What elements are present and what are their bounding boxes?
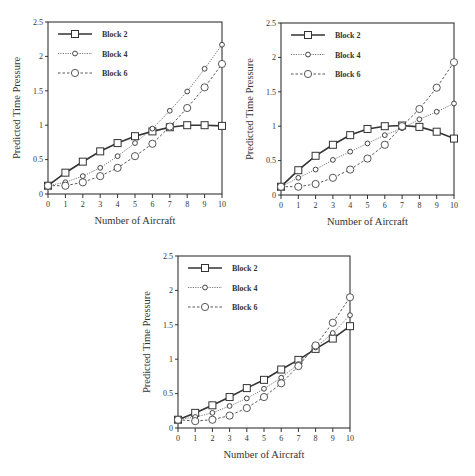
legend-label: Block 6 bbox=[102, 69, 128, 78]
legend-square-icon bbox=[305, 32, 312, 39]
circle-marker-icon bbox=[347, 166, 354, 173]
square-marker-icon bbox=[97, 148, 104, 155]
y-tick-label: 0.5 bbox=[163, 389, 173, 398]
small-circle-marker-icon bbox=[167, 108, 172, 113]
circle-marker-icon bbox=[149, 140, 156, 147]
y-tick-label: 1 bbox=[272, 122, 276, 131]
circle-marker-icon bbox=[364, 155, 371, 162]
square-marker-icon bbox=[243, 385, 250, 392]
y-tick-label: 1.5 bbox=[163, 321, 173, 330]
circle-marker-icon bbox=[226, 412, 233, 419]
y-tick-label: 2 bbox=[39, 52, 43, 61]
x-tick-label: 7 bbox=[168, 200, 172, 209]
square-marker-icon bbox=[433, 128, 440, 135]
small-circle-marker-icon bbox=[313, 167, 318, 172]
circle-marker-icon bbox=[184, 104, 191, 111]
y-tick-label: 1 bbox=[169, 355, 173, 364]
circle-marker-icon bbox=[218, 60, 225, 67]
square-marker-icon bbox=[132, 133, 139, 140]
square-marker-icon bbox=[347, 132, 354, 139]
y-axis-title: Predicted Time Pressure bbox=[244, 58, 255, 160]
square-marker-icon bbox=[209, 402, 216, 409]
x-tick-label: 1 bbox=[296, 201, 300, 210]
legend-label: Block 2 bbox=[102, 30, 128, 39]
x-tick-label: 6 bbox=[383, 201, 387, 210]
square-marker-icon bbox=[219, 122, 226, 129]
x-tick-label: 4 bbox=[245, 434, 249, 443]
y-tick-label: 2.5 bbox=[163, 252, 173, 261]
square-marker-icon bbox=[226, 394, 233, 401]
series-line-block-6 bbox=[281, 62, 454, 187]
x-axis-title: Number of Aircraft bbox=[223, 449, 304, 460]
square-marker-icon bbox=[114, 140, 121, 147]
x-axis-title: Number of Aircraft bbox=[327, 216, 408, 227]
square-marker-icon bbox=[79, 158, 86, 165]
circle-marker-icon bbox=[62, 182, 69, 189]
x-tick-label: 4 bbox=[348, 201, 352, 210]
x-tick-label: 7 bbox=[400, 201, 404, 210]
circle-marker-icon bbox=[166, 123, 173, 130]
y-tick-label: 1.5 bbox=[266, 88, 276, 97]
chart-panel-bottom: 00.511.522.5012345678910Number of Aircra… bbox=[141, 252, 354, 460]
small-circle-marker-icon bbox=[115, 154, 120, 159]
circle-marker-icon bbox=[277, 183, 284, 190]
small-circle-marker-icon bbox=[220, 42, 225, 47]
small-circle-marker-icon bbox=[331, 158, 336, 163]
small-circle-marker-icon bbox=[133, 141, 138, 146]
circle-marker-icon bbox=[243, 404, 250, 411]
y-tick-label: 1.5 bbox=[33, 87, 43, 96]
x-tick-label: 7 bbox=[296, 434, 300, 443]
circle-marker-icon bbox=[174, 416, 181, 423]
x-tick-label: 10 bbox=[450, 201, 458, 210]
x-axis-title: Number of Aircraft bbox=[94, 215, 175, 226]
square-marker-icon bbox=[416, 123, 423, 130]
legend-label: Block 4 bbox=[232, 284, 258, 293]
circle-marker-icon bbox=[114, 164, 121, 171]
square-marker-icon bbox=[364, 125, 371, 132]
small-circle-marker-icon bbox=[98, 165, 103, 170]
plot-frame bbox=[48, 22, 222, 194]
figure-canvas: 00.511.522.5012345678910Number of Aircra… bbox=[0, 0, 475, 476]
square-marker-icon bbox=[329, 141, 336, 148]
legend-label: Block 4 bbox=[102, 50, 128, 59]
circle-marker-icon bbox=[399, 123, 406, 130]
small-circle-marker-icon bbox=[348, 149, 353, 154]
x-tick-label: 6 bbox=[150, 200, 154, 209]
legend-square-icon bbox=[202, 265, 209, 272]
y-tick-label: 1 bbox=[39, 121, 43, 130]
small-circle-marker-icon bbox=[365, 141, 370, 146]
legend-label: Block 2 bbox=[335, 31, 361, 40]
small-circle-marker-icon bbox=[452, 101, 457, 106]
series-line-block-4 bbox=[178, 315, 350, 420]
circle-marker-icon bbox=[433, 84, 440, 91]
x-tick-label: 0 bbox=[176, 434, 180, 443]
square-marker-icon bbox=[451, 135, 458, 142]
circle-marker-icon bbox=[97, 173, 104, 180]
circle-marker-icon bbox=[295, 362, 302, 369]
square-marker-icon bbox=[329, 335, 336, 342]
circle-marker-icon bbox=[278, 380, 285, 387]
circle-marker-icon bbox=[192, 418, 199, 425]
circle-marker-icon bbox=[381, 141, 388, 148]
series-line-block-6 bbox=[178, 297, 350, 421]
y-tick-label: 0 bbox=[169, 424, 173, 433]
plot-frame bbox=[178, 256, 350, 428]
x-tick-label: 1 bbox=[63, 200, 67, 209]
y-axis-title: Predicted Time Pressure bbox=[141, 291, 152, 393]
small-circle-marker-icon bbox=[262, 386, 267, 391]
series-line-block-2 bbox=[178, 326, 350, 420]
x-tick-label: 0 bbox=[279, 201, 283, 210]
y-tick-label: 0 bbox=[272, 191, 276, 200]
circle-marker-icon bbox=[416, 105, 423, 112]
small-circle-marker-icon bbox=[244, 396, 249, 401]
chart-panel-top-left: 00.511.522.5012345678910Number of Aircra… bbox=[11, 18, 226, 226]
x-tick-label: 9 bbox=[203, 200, 207, 209]
small-circle-marker-icon bbox=[210, 410, 215, 415]
square-marker-icon bbox=[381, 123, 388, 130]
legend-circle-icon bbox=[201, 303, 208, 310]
y-tick-label: 0.5 bbox=[33, 155, 43, 164]
circle-marker-icon bbox=[260, 393, 267, 400]
square-marker-icon bbox=[201, 122, 208, 129]
x-tick-label: 6 bbox=[279, 434, 283, 443]
x-tick-label: 10 bbox=[218, 200, 226, 209]
